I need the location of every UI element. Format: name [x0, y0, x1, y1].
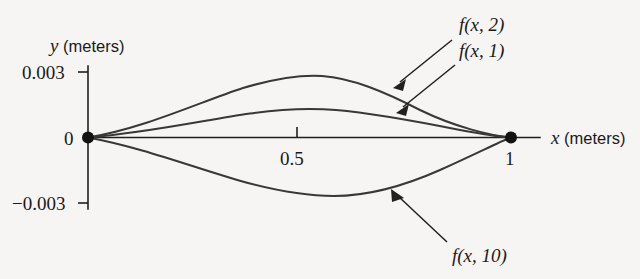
- y-axis-label-unit: (meters): [63, 37, 124, 55]
- y-tick-label-zero: 0: [64, 128, 74, 149]
- leader-line-f-x-1: [403, 65, 455, 107]
- arrowhead-f-x-1: [396, 104, 409, 116]
- function-plot-figure: y (meters) x (meters) 0.003 0 −0.003 0.5…: [0, 0, 640, 279]
- x-axis-label-unit: (meters): [564, 129, 625, 147]
- origin-point-marker: [82, 132, 94, 144]
- y-axis-label-variable: y: [48, 35, 59, 56]
- curve-label-f-x-10: f(x, 10): [452, 245, 507, 267]
- leader-line-f-x-10: [398, 196, 447, 242]
- x-tick-label-right: 1: [505, 148, 515, 169]
- y-tick-label-top: 0.003: [22, 62, 65, 83]
- arrowhead-f-x-2: [393, 79, 406, 91]
- curve-label-f-x-2: f(x, 2): [459, 14, 504, 36]
- x-axis-label-variable: x: [550, 127, 560, 148]
- curve-f-x-1: [88, 109, 511, 138]
- x-tick-label-mid: 0.5: [280, 148, 304, 169]
- y-tick-label-bottom: −0.003: [12, 193, 65, 214]
- curve-label-f-x-1: f(x, 1): [459, 40, 504, 62]
- endpoint-marker-x1: [505, 132, 517, 144]
- leader-line-f-x-2: [400, 40, 452, 82]
